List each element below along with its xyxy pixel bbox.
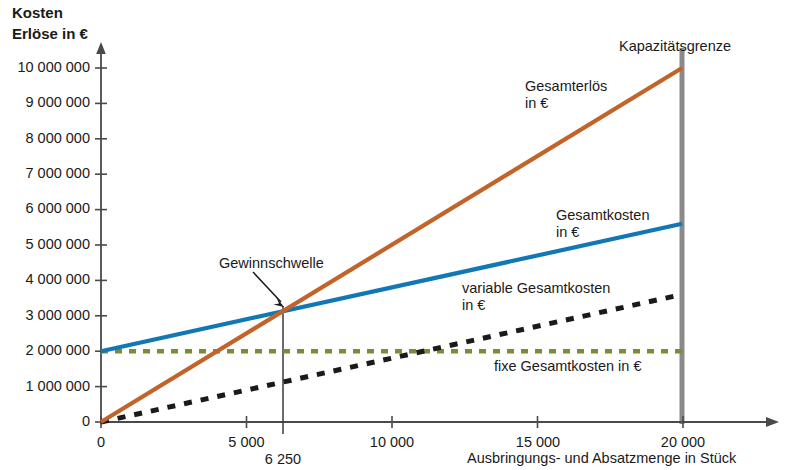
y-tick-label-2000000: 2 000 000 (0, 342, 90, 359)
y-tick-label-10000000: 10 000 000 (0, 59, 90, 76)
x-tick-label-5000: 5 000 (206, 434, 287, 451)
x-tick-label-6250: 6 250 (246, 451, 320, 468)
x-tick-label-10000: 10 000 (348, 434, 436, 451)
series-label-gesamterloes-line1: Gesamterlös (525, 78, 607, 95)
x-tick-label-20000: 20 000 (639, 434, 727, 451)
series-label-variable-gesamtkosten-line2: in € (462, 297, 485, 314)
annotation-label-kapazitaetsgrenze: Kapazitätsgrenze (619, 38, 731, 55)
y-tick-label-7000000: 7 000 000 (0, 165, 90, 182)
y-axis-arrow-icon (96, 42, 106, 54)
break-even-chart: Kosten Erlöse in € 10 000 000 9 000 000 … (0, 0, 801, 470)
series-label-variable-gesamtkosten-line1: variable Gesamtkosten (462, 280, 610, 297)
y-tick-label-4000000: 4 000 000 (0, 271, 90, 288)
x-tick-label-15000: 15 000 (494, 434, 582, 451)
annotation-label-gewinnschwelle: Gewinnschwelle (219, 255, 324, 272)
series-label-fixe-gesamtkosten: fixe Gesamtkosten in € (494, 358, 642, 375)
break-even-arrow-shaft (253, 272, 281, 302)
series-label-gesamterloes-line2: in € (525, 95, 548, 112)
y-tick-label-8000000: 8 000 000 (0, 130, 90, 147)
y-tick-label-3000000: 3 000 000 (0, 307, 90, 324)
y-tick-label-6000000: 6 000 000 (0, 200, 90, 217)
series-label-gesamtkosten-line2: in € (556, 224, 579, 241)
series-label-gesamtkosten-line1: Gesamtkosten (556, 207, 650, 224)
y-tick-label-5000000: 5 000 000 (0, 236, 90, 253)
y-tick-label-1000000: 1 000 000 (0, 378, 90, 395)
x-tick-label-0: 0 (81, 434, 121, 451)
y-axis-title-line1: Kosten (12, 4, 63, 22)
y-tick-label-9000000: 9 000 000 (0, 94, 90, 111)
x-axis-arrow-icon (766, 417, 779, 427)
y-axis-title-line2: Erlöse in € (12, 25, 88, 43)
x-axis-title: Ausbringungs- und Absatzmenge in Stück (467, 450, 736, 467)
y-tick-label-0: 0 (0, 413, 90, 430)
chart-canvas (0, 0, 801, 470)
